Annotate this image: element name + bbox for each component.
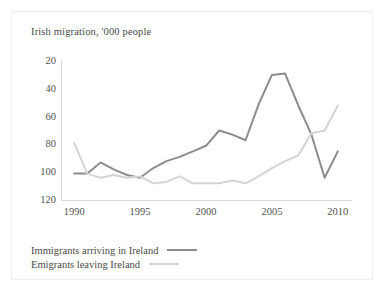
x-axis-line: [61, 200, 352, 201]
legend-item: Emigrants leaving Ireland: [31, 257, 361, 271]
legend-item: Immigrants arriving in Ireland: [31, 243, 361, 257]
legend-item-label: Emigrants leaving Ireland: [31, 259, 140, 270]
thin-line-swatch: [149, 263, 179, 265]
series-line: [74, 74, 338, 178]
y-axis-tick-20: 120: [22, 195, 56, 206]
x-axis-tick-2005: 2005: [261, 207, 282, 218]
x-axis-tick-1995: 1995: [130, 207, 151, 218]
x-axis-tick-1990: 1990: [64, 207, 85, 218]
y-axis-tick-60: 80: [22, 139, 56, 150]
plot-area: [61, 61, 351, 200]
x-axis-tick-labels: 19901995200020052010: [0, 207, 384, 223]
x-axis-tick-2000: 2000: [196, 207, 217, 218]
y-axis-tick-120: 20: [22, 56, 56, 67]
chart-figure: Irish migration, '000 people 12010080604…: [0, 0, 384, 291]
y-axis-tick-40: 100: [22, 167, 56, 178]
legend-item-label: Immigrants arriving in Ireland: [31, 245, 158, 256]
x-axis-tick-2010: 2010: [327, 207, 348, 218]
series-canvas: [61, 61, 351, 200]
thick-line-swatch: [167, 249, 197, 251]
chart-legend: Immigrants arriving in IrelandEmigrants …: [31, 243, 361, 271]
y-axis-tick-100: 40: [22, 84, 56, 95]
y-axis-tick-80: 60: [22, 112, 56, 123]
